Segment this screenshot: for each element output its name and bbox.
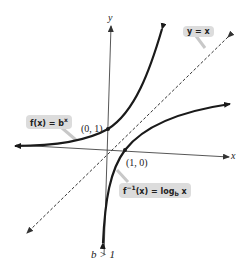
logarithm-label: f−1(x) = logb x bbox=[119, 183, 191, 198]
identity-label: y = x bbox=[183, 26, 214, 37]
log-label-post: x bbox=[179, 187, 187, 196]
exponential-label: f(x) = bx bbox=[26, 115, 72, 129]
exponential-label-sup: x bbox=[64, 116, 68, 123]
y-axis-label: y bbox=[108, 12, 112, 23]
graph-figure: y x (0, 1) (1, 0) f(x) = bx y = x f−1(x)… bbox=[0, 0, 251, 278]
graph-canvas bbox=[0, 0, 251, 278]
point-1-0 bbox=[123, 148, 127, 152]
identity-line bbox=[27, 37, 228, 233]
exponential-label-text: f(x) = b bbox=[30, 119, 64, 128]
x-axis-label: x bbox=[231, 150, 235, 161]
log-label-mid: (x) = log bbox=[136, 187, 175, 196]
condition-caption: b > 1 bbox=[91, 248, 115, 260]
point-label-0-1: (0, 1) bbox=[81, 123, 103, 134]
log-label-sup: −1 bbox=[126, 184, 135, 191]
point-0-1 bbox=[106, 127, 110, 131]
point-label-1-0: (1, 0) bbox=[126, 157, 148, 168]
